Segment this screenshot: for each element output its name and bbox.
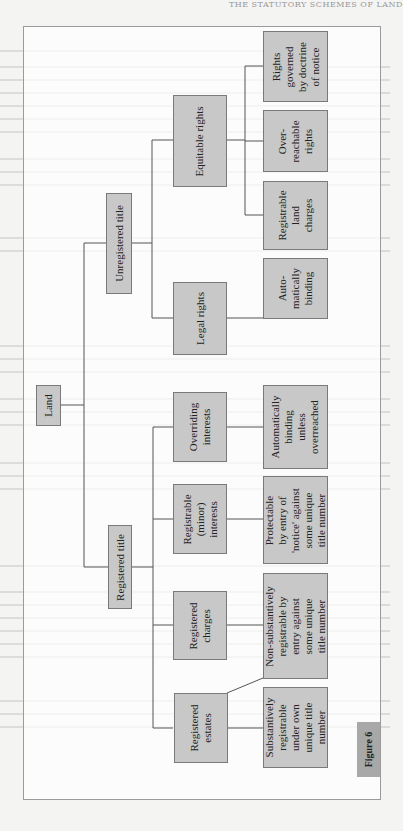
node-protectable-by-notice: Protectable by entry of 'notice' against… xyxy=(263,476,328,564)
node-registrable-minor-interests: Registrable (minor) interests xyxy=(173,484,227,554)
node-label: Auto- matically binding xyxy=(276,268,315,309)
node-label: Rights governed by doctrine of notice xyxy=(269,42,321,92)
node-label: Registrable land charges xyxy=(276,190,315,240)
node-label: Registered estates xyxy=(188,704,214,751)
figure-label-tab: Figure 6 xyxy=(357,722,380,777)
node-label: Non-substantively registrable by entry a… xyxy=(263,586,328,667)
node-label: Over- reachable rights xyxy=(276,120,315,162)
node-non-substantively-registrable: Non-substantively registrable by entry a… xyxy=(263,573,328,679)
node-rights-governed-by-notice: Rights governed by doctrine of notice xyxy=(263,31,328,102)
node-label: Land xyxy=(42,394,55,417)
node-registrable-land-charges: Registrable land charges xyxy=(263,181,328,250)
node-label: Registered title xyxy=(114,534,127,601)
node-overriding-interests: Overriding interests xyxy=(173,392,227,462)
node-label: Protectable by entry of 'notice' against… xyxy=(263,488,328,553)
node-label: Unregistered title xyxy=(113,205,126,282)
node-automatically-binding: Auto- matically binding xyxy=(263,258,328,319)
node-label: Registrable (minor) interests xyxy=(180,494,219,544)
node-legal-rights: Legal rights xyxy=(173,282,227,355)
node-unregistered-title: Unregistered title xyxy=(106,193,132,294)
node-overreachable-rights: Over- reachable rights xyxy=(263,110,328,172)
node-land: Land xyxy=(36,385,61,426)
node-substantively-registrable: Substantively registrable under own uniq… xyxy=(263,687,328,768)
node-label: Legal rights xyxy=(194,292,207,345)
node-registered-title: Registered title xyxy=(108,525,132,609)
node-equitable-rights: Equitable rights xyxy=(173,95,227,187)
node-label: Substantively registrable under own uniq… xyxy=(263,698,328,758)
node-label: Registered charges xyxy=(187,602,213,649)
node-registered-charges: Registered charges xyxy=(173,591,227,660)
node-label: Overriding interests xyxy=(187,403,213,451)
node-label: Equitable rights xyxy=(194,106,207,176)
node-automatically-binding-unless-overreached: Automatically binding unless overreached xyxy=(263,385,328,469)
node-registered-estates: Registered estates xyxy=(174,693,228,763)
figure-label: Figure 6 xyxy=(363,732,374,768)
node-label: Automatically binding unless overreached xyxy=(270,396,322,459)
